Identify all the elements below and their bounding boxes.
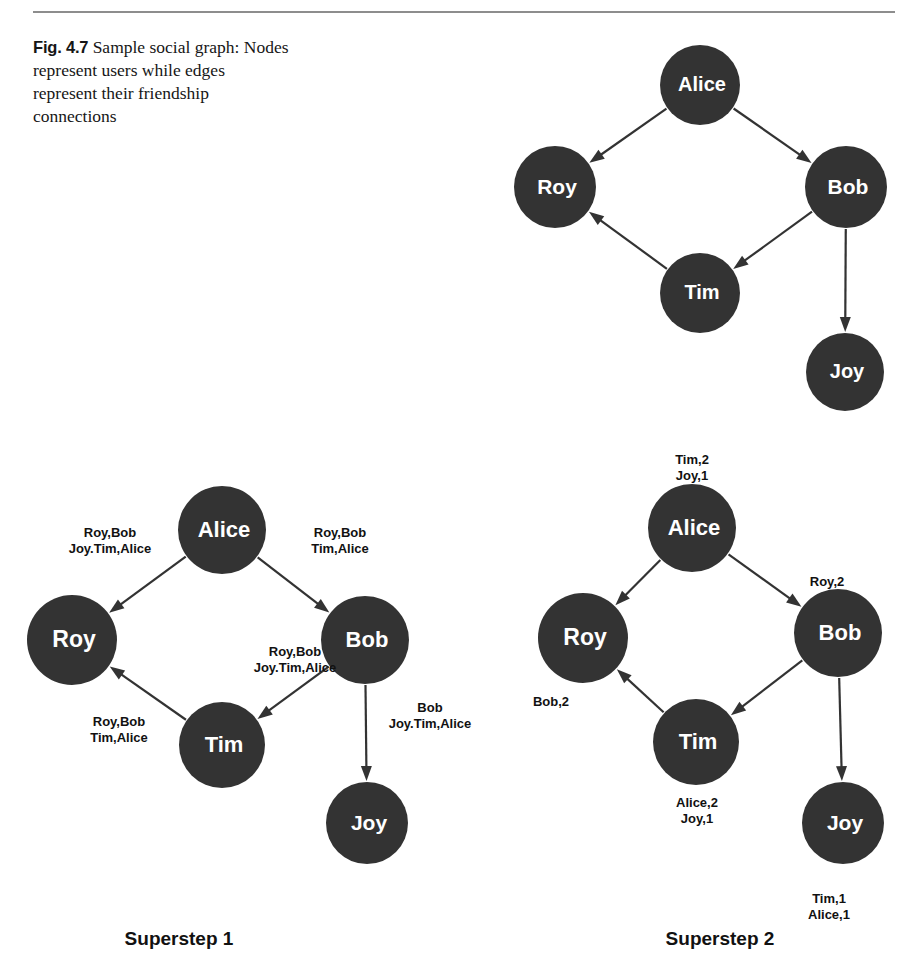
node-top-joy[interactable]: Joy: [806, 333, 884, 411]
panel-title-superstep1: Superstep 1: [79, 928, 279, 950]
node-label: Roy: [52, 626, 96, 652]
node-label: Roy: [563, 624, 607, 650]
edge-arrowhead: [109, 599, 124, 612]
edge-arrowhead: [786, 594, 801, 607]
edge-superstep2-bob-to-tim: [731, 660, 802, 715]
edge-arrowhead: [733, 256, 748, 269]
roy-value-message: Bob,2: [421, 694, 681, 710]
edge-arrowhead: [110, 666, 125, 679]
node-label: Joy: [351, 811, 388, 834]
node-label: Alice: [678, 73, 726, 95]
tim-value-message: Alice,2 Joy,1: [567, 795, 827, 827]
node-label: Bob: [828, 175, 869, 198]
edge-superstep1-alice-to-roy: [109, 557, 186, 613]
edge-line: [598, 109, 666, 157]
figure-page: Fig. 4.7 Sample social graph: Nodes repr…: [0, 0, 899, 972]
edge-line: [839, 678, 841, 770]
node-top-tim[interactable]: Tim: [660, 253, 740, 333]
node-superstep1-joy[interactable]: Joy: [326, 782, 408, 864]
edge-arrowhead: [836, 766, 847, 781]
node-label: Tim: [679, 729, 718, 754]
alice-value-message: Tim,2 Joy,1: [562, 452, 822, 484]
node-superstep2-tim[interactable]: Tim: [653, 699, 739, 785]
edge-top-alice-to-bob: [734, 108, 812, 162]
node-label: Joy: [830, 360, 865, 382]
node-label: Bob: [819, 620, 862, 645]
bob-to-tim-message: Roy,Bob Joy.Tim,Alice: [165, 644, 425, 676]
edge-top-bob-to-tim: [733, 212, 812, 269]
edge-line: [119, 673, 186, 720]
edge-arrowhead: [589, 150, 604, 163]
node-label: Roy: [537, 175, 577, 198]
edge-arrowhead: [257, 706, 272, 719]
edge-arrowhead: [589, 212, 604, 225]
node-top-alice[interactable]: Alice: [660, 45, 740, 125]
joy-value-message: Tim,1 Alice,1: [699, 891, 899, 923]
edge-line: [118, 557, 186, 607]
edge-line: [258, 557, 321, 605]
node-label: Joy: [827, 811, 864, 834]
alice-to-bob-message: Roy,Bob Tim,Alice: [210, 525, 470, 557]
edge-superstep2-alice-to-roy: [615, 560, 660, 605]
edge-line: [740, 660, 803, 708]
edge-superstep2-bob-to-joy: [836, 678, 847, 781]
node-top-bob[interactable]: Bob: [805, 146, 887, 228]
edge-line: [742, 212, 812, 263]
node-label: Tim: [684, 281, 719, 303]
alice-to-roy-message: Roy,Bob Joy.Tim,Alice: [0, 525, 240, 557]
node-superstep2-bob[interactable]: Bob: [794, 589, 882, 677]
edge-line: [598, 218, 667, 269]
edge-line: [623, 560, 660, 598]
panel-title-superstep2: Superstep 2: [620, 928, 820, 950]
node-superstep1-roy[interactable]: Roy: [27, 595, 117, 685]
edge-top-alice-to-roy: [589, 109, 666, 163]
node-superstep2-alice[interactable]: Alice: [648, 484, 736, 572]
edge-arrowhead: [840, 317, 851, 332]
edge-top-tim-to-roy: [589, 212, 667, 269]
tim-to-roy-message: Roy,Bob Tim,Alice: [0, 714, 249, 746]
edge-superstep1-alice-to-bob: [258, 557, 330, 612]
edge-arrowhead: [731, 702, 746, 715]
edge-arrowhead: [796, 150, 811, 163]
bob-value-message: Roy,2: [697, 574, 899, 590]
edge-top-bob-to-joy: [840, 229, 851, 332]
node-top-roy[interactable]: Roy: [514, 146, 596, 228]
node-superstep2-roy[interactable]: Roy: [538, 593, 628, 683]
node-label: Alice: [668, 515, 721, 540]
edge-arrowhead: [361, 766, 372, 781]
edge-line: [734, 108, 803, 156]
edge-arrowhead: [314, 599, 329, 613]
